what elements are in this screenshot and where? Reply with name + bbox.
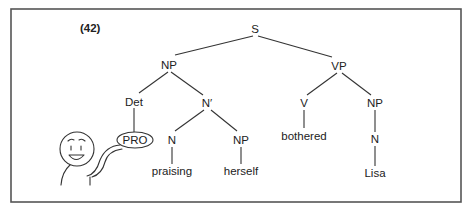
example-number: (42): [80, 22, 101, 34]
tree-nodes: S NP VP Det N′ PRO N NP V NP N praising …: [117, 23, 386, 179]
left-eyebrow-icon: [68, 139, 74, 141]
node-vp: VP: [331, 60, 347, 72]
smile-icon: [69, 155, 84, 160]
edge-vp-np: [342, 73, 371, 95]
leaf-lisa: Lisa: [364, 167, 386, 179]
body-left-icon: [61, 165, 70, 185]
node-n-lisa: N: [371, 133, 379, 145]
node-det: Det: [125, 96, 144, 108]
leaf-bothered: bothered: [281, 130, 326, 142]
right-eyebrow-icon: [79, 139, 85, 141]
arm-inner-icon: [87, 145, 120, 176]
leaf-praising: praising: [152, 165, 192, 177]
leaf-herself: herself: [224, 165, 259, 177]
node-n-praising: N: [168, 134, 176, 146]
edge-np-nbar: [171, 72, 203, 95]
edge-np-det: [139, 72, 168, 93]
smiling-person-icon: [60, 132, 122, 185]
edge-nbar-np: [211, 110, 237, 131]
node-s: S: [251, 23, 259, 35]
node-n-bar: N′: [202, 97, 212, 109]
head-icon: [60, 132, 94, 166]
edge-s-np: [175, 36, 253, 55]
node-pro: PRO: [123, 134, 148, 146]
syntax-tree-diagram: (42) S NP VP Det N′ PRO: [0, 0, 470, 213]
arm-outer-icon: [92, 149, 122, 177]
edge-vp-v: [307, 73, 337, 95]
edge-s-vp: [258, 36, 332, 57]
node-np-object: NP: [367, 97, 383, 109]
node-np-herself: NP: [233, 134, 249, 146]
edge-nbar-n: [175, 110, 204, 131]
node-np-subject: NP: [161, 59, 177, 71]
tree-edges: [134, 36, 375, 166]
node-v: V: [300, 97, 308, 109]
